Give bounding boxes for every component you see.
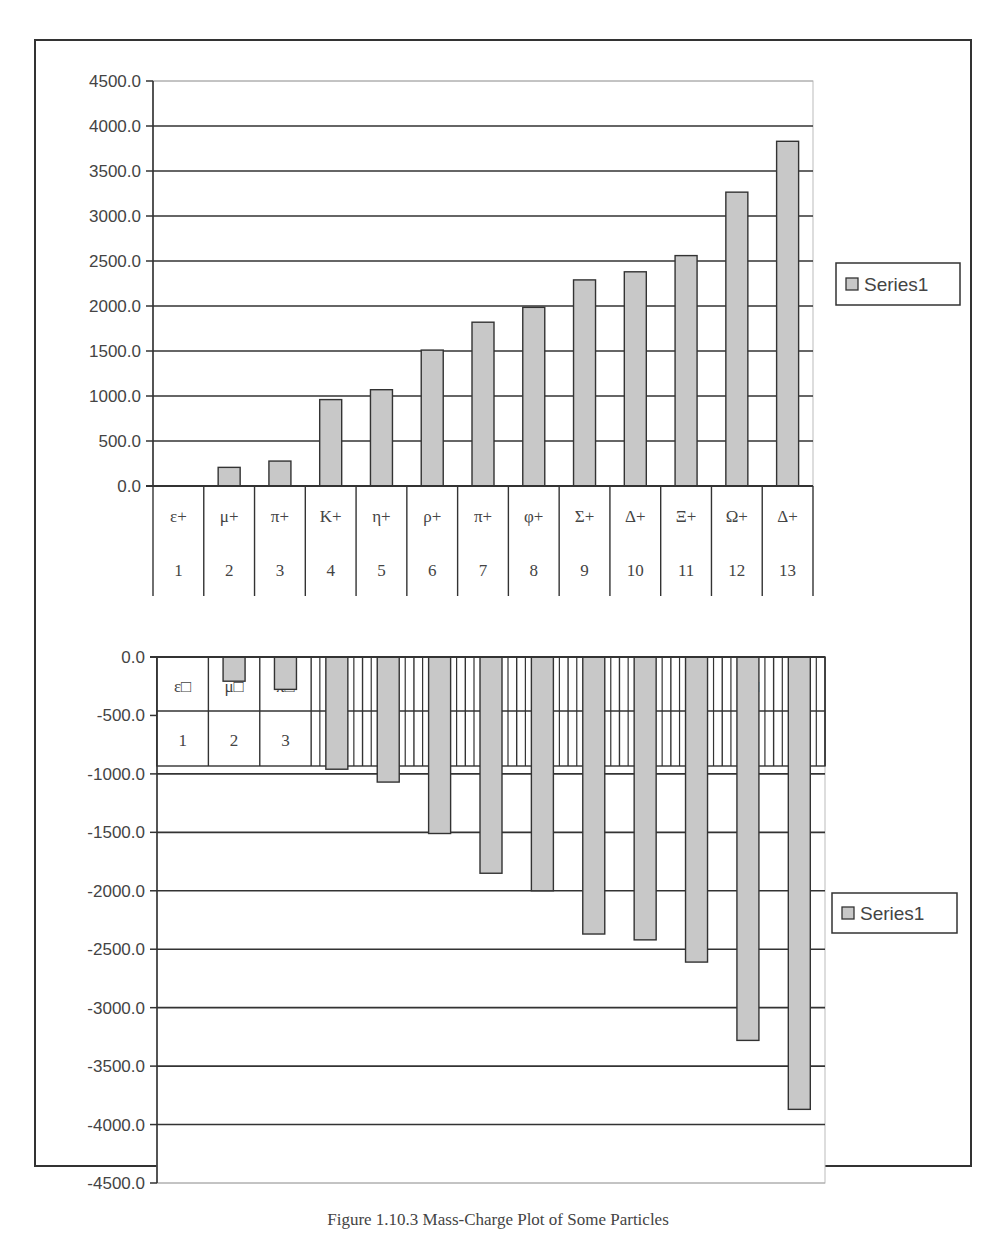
category-index-label: 6 xyxy=(428,561,437,580)
charts-canvas: 4500.04000.03500.03000.02500.02000.01500… xyxy=(0,0,996,1233)
category-index-label: 10 xyxy=(627,561,644,580)
category-index-label: 12 xyxy=(728,561,745,580)
y-tick-label: -2500.0 xyxy=(87,940,145,959)
bar xyxy=(421,350,443,486)
category-index-label: 13 xyxy=(779,561,796,580)
bar xyxy=(429,657,451,834)
legend: Series1 xyxy=(836,263,960,305)
category-index-label: 9 xyxy=(580,561,589,580)
category-symbol-label: π+ xyxy=(474,507,492,526)
bar xyxy=(274,657,296,689)
bar xyxy=(788,657,810,1109)
y-tick-label: 2500.0 xyxy=(89,252,141,271)
y-tick-label: 2000.0 xyxy=(89,297,141,316)
category-symbol-label: Ξ+ xyxy=(676,507,697,526)
legend-label: Series1 xyxy=(864,274,928,295)
category-index-label: 1 xyxy=(178,731,187,750)
bar xyxy=(583,657,605,934)
bar xyxy=(574,280,596,486)
y-tick-label: -2000.0 xyxy=(87,882,145,901)
category-symbol-label: Δ+ xyxy=(777,507,798,526)
category-index-label: 1 xyxy=(174,561,183,580)
category-symbol-label: η+ xyxy=(372,507,390,526)
y-tick-label: -4500.0 xyxy=(87,1174,145,1193)
category-index-label: 4 xyxy=(326,561,335,580)
category-axis-table: ε+1μ+2π+3K+4η+5ρ+6π+7φ+8Σ+9Δ+10Ξ+11Ω+12Δ… xyxy=(153,486,813,596)
y-tick-label: -1000.0 xyxy=(87,765,145,784)
category-symbol-label: π+ xyxy=(271,507,289,526)
bar xyxy=(326,657,348,769)
category-symbol-label: Σ+ xyxy=(575,507,594,526)
bar xyxy=(624,272,646,486)
y-tick-label: 4000.0 xyxy=(89,117,141,136)
y-tick-label: 3500.0 xyxy=(89,162,141,181)
y-tick-label: 3000.0 xyxy=(89,207,141,226)
bar xyxy=(218,467,240,486)
positive-charge-chart: 4500.04000.03500.03000.02500.02000.01500… xyxy=(89,72,960,596)
bar xyxy=(480,657,502,873)
bar xyxy=(686,657,708,962)
y-tick-label: 0.0 xyxy=(117,477,141,496)
category-index-label: 8 xyxy=(530,561,539,580)
bar xyxy=(377,657,399,782)
category-symbol-label: φ+ xyxy=(524,507,543,526)
category-index-label: 3 xyxy=(281,731,290,750)
y-tick-label: 1000.0 xyxy=(89,387,141,406)
category-index-label: 7 xyxy=(479,561,488,580)
category-symbol-label: μ+ xyxy=(220,507,239,526)
category-symbol-label: ε+ xyxy=(170,507,187,526)
bar xyxy=(320,400,342,486)
y-tick-label: -4000.0 xyxy=(87,1116,145,1135)
y-tick-label: -3000.0 xyxy=(87,999,145,1018)
category-index-label: 11 xyxy=(678,561,694,580)
y-tick-label: -1500.0 xyxy=(87,823,145,842)
figure-caption: Figure 1.10.3 Mass-Charge Plot of Some P… xyxy=(0,1210,996,1230)
bar xyxy=(269,461,291,486)
legend-label: Series1 xyxy=(860,903,924,924)
bar xyxy=(737,657,759,1040)
bar xyxy=(726,192,748,486)
category-symbol-label: Δ+ xyxy=(625,507,646,526)
bar xyxy=(223,657,245,681)
bar xyxy=(523,307,545,486)
category-symbol-label: ε□ xyxy=(174,677,191,696)
legend-swatch-icon xyxy=(846,278,858,290)
category-index-label: 3 xyxy=(276,561,285,580)
bar xyxy=(472,322,494,486)
category-index-label: 2 xyxy=(230,731,239,750)
category-symbol-label: K+ xyxy=(320,507,342,526)
category-symbol-label: ρ+ xyxy=(423,507,441,526)
y-tick-label: 0.0 xyxy=(121,648,145,667)
bar xyxy=(675,256,697,486)
y-tick-label: 4500.0 xyxy=(89,72,141,91)
legend-swatch-icon xyxy=(842,907,854,919)
bar xyxy=(531,657,553,891)
y-tick-label: 500.0 xyxy=(98,432,141,451)
y-tick-label: 1500.0 xyxy=(89,342,141,361)
negative-charge-chart: 0.0-500.0-1000.0-1500.0-2000.0-2500.0-30… xyxy=(87,648,957,1193)
bar xyxy=(777,141,799,486)
category-index-label: 5 xyxy=(377,561,386,580)
legend: Series1 xyxy=(832,893,957,933)
bar xyxy=(370,390,392,486)
category-symbol-label: Ω+ xyxy=(726,507,748,526)
bar xyxy=(634,657,656,940)
y-tick-label: -500.0 xyxy=(97,706,145,725)
category-index-label: 2 xyxy=(225,561,234,580)
y-tick-label: -3500.0 xyxy=(87,1057,145,1076)
